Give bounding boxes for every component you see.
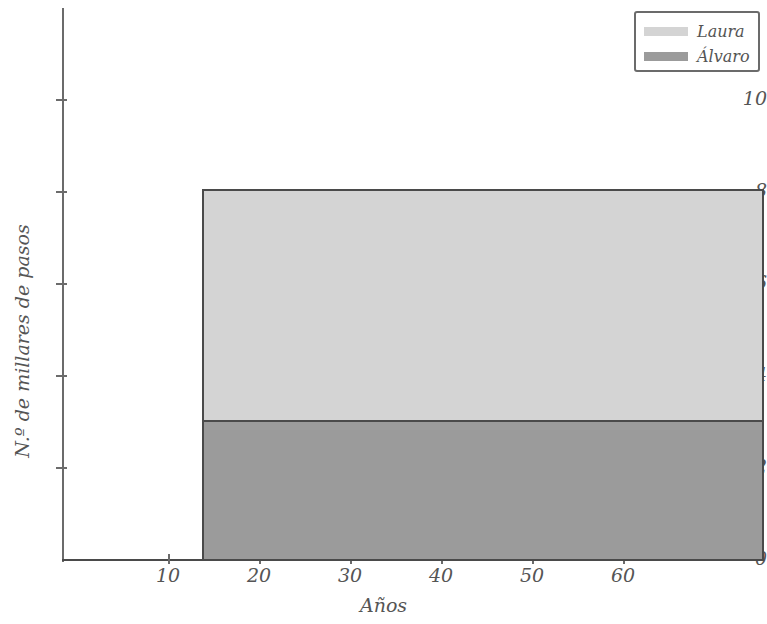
y-tick-mark-2 — [56, 467, 67, 469]
y-tick-mark-10 — [56, 99, 67, 101]
bar-segment-alvaro — [202, 420, 764, 561]
legend-label-laura: Laura — [697, 24, 745, 40]
x-tick-label-50: 50 — [506, 566, 558, 585]
y-tick-mark-8 — [56, 191, 67, 193]
y-axis-title: N.º de millares de pasos — [11, 191, 33, 491]
legend-swatch-laura — [644, 27, 688, 36]
y-tick-label-10: 10 — [731, 89, 767, 108]
chart-legend: Laura Álvaro — [634, 11, 760, 72]
y-tick-mark-6 — [56, 283, 67, 285]
x-tick-mark-10 — [168, 554, 170, 564]
bar-segment-laura — [202, 189, 764, 422]
legend-label-alvaro: Álvaro — [697, 49, 750, 65]
chart-figure: 10 8 6 4 2 0 10 20 30 40 50 60 N.º de mi… — [0, 0, 767, 624]
legend-item-alvaro: Álvaro — [644, 44, 750, 69]
x-tick-label-40: 40 — [415, 566, 467, 585]
y-axis-line — [62, 8, 64, 562]
x-tick-label-20: 20 — [233, 566, 285, 585]
legend-item-laura: Laura — [644, 19, 750, 44]
x-tick-label-10: 10 — [142, 566, 194, 585]
x-tick-label-60: 60 — [597, 566, 649, 585]
y-tick-mark-4 — [56, 375, 67, 377]
x-tick-label-30: 30 — [324, 566, 376, 585]
legend-swatch-alvaro — [644, 52, 688, 61]
x-axis-title: Años — [0, 594, 767, 616]
